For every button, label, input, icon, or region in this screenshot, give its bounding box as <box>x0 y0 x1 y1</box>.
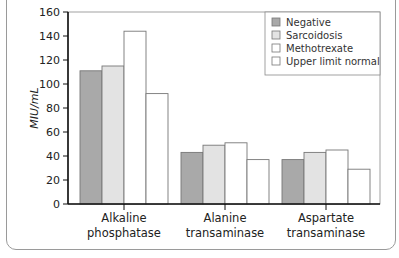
x-category-label: transaminase <box>287 226 365 240</box>
bar <box>348 169 370 204</box>
bar <box>102 66 124 204</box>
x-category-label: Alanine <box>204 211 247 225</box>
y-tick-label: 20 <box>46 174 60 187</box>
y-tick-label: 160 <box>39 6 60 19</box>
legend-label: Methotrexate <box>286 43 353 54</box>
bar <box>146 94 168 204</box>
legend-label: Sarcoidosis <box>286 30 342 41</box>
x-ticks: AlkalinephosphataseAlaninetransaminaseAs… <box>87 204 365 240</box>
bar <box>326 150 348 204</box>
y-tick-label: 40 <box>46 150 60 163</box>
y-tick-label: 120 <box>39 54 60 67</box>
bar <box>304 152 326 204</box>
y-ticks: 020406080100120140160 <box>39 6 68 211</box>
bar <box>80 71 102 204</box>
x-category-label: Alkaline <box>101 211 146 225</box>
bar <box>282 160 304 204</box>
legend-swatch <box>272 57 280 65</box>
x-category-label: Aspartate <box>298 211 354 225</box>
y-tick-label: 140 <box>39 30 60 43</box>
bar <box>225 143 247 204</box>
bar <box>181 152 203 204</box>
legend-swatch <box>272 18 280 26</box>
legend: NegativeSarcoidosisMethotrexateUpper lim… <box>265 12 380 75</box>
bar <box>124 31 146 204</box>
legend-label: Upper limit normal <box>286 56 380 67</box>
y-tick-label: 0 <box>53 198 60 211</box>
y-tick-label: 80 <box>46 102 60 115</box>
legend-swatch <box>272 31 280 39</box>
bar <box>203 145 225 204</box>
x-category-label: transaminase <box>186 226 264 240</box>
legend-swatch <box>272 44 280 52</box>
y-axis-label: MIU/mL <box>28 87 41 128</box>
bar <box>247 160 269 204</box>
bar-chart: 020406080100120140160 Alkalinephosphatas… <box>0 0 399 258</box>
y-tick-label: 60 <box>46 126 60 139</box>
y-tick-label: 100 <box>39 78 60 91</box>
x-category-label: phosphatase <box>87 226 161 240</box>
legend-label: Negative <box>286 17 331 28</box>
